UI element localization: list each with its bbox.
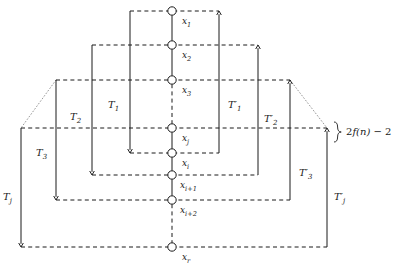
tree-label-subscript: 3 bbox=[43, 153, 47, 161]
dotted-continuation-group bbox=[21, 80, 327, 128]
left-tree-vertical-arrows bbox=[19, 11, 133, 247]
tree-label-T2p: T′2 bbox=[264, 114, 277, 127]
brace-glyph bbox=[334, 122, 341, 142]
node-x3 bbox=[168, 76, 176, 84]
tree-label-T3p: T′3 bbox=[299, 168, 312, 181]
tree-label-T2: T2 bbox=[70, 112, 81, 125]
tree-label-base: T bbox=[334, 191, 341, 202]
node-label-subscript: 2 bbox=[187, 55, 191, 63]
node-label-xi2: xi+2 bbox=[180, 206, 197, 217]
node-label-subscript: j bbox=[187, 138, 189, 146]
node-label-subscript: 1 bbox=[187, 21, 191, 29]
tree-label-Tj: Tj bbox=[3, 192, 12, 205]
node-label-x3: x3 bbox=[182, 86, 191, 97]
tree-label-T3: T3 bbox=[36, 148, 47, 161]
diagram-canvas bbox=[0, 0, 400, 274]
node-label-xj: xj bbox=[182, 134, 189, 145]
node-label-subscript: 3 bbox=[187, 90, 191, 98]
tree-label-subscript: 2 bbox=[273, 119, 277, 127]
node-label-xi1: xi+1 bbox=[180, 181, 197, 192]
annotation-argument: (n) bbox=[356, 126, 370, 137]
node-xj bbox=[168, 124, 176, 132]
right-tree-vertical-arrows bbox=[217, 11, 330, 247]
tree-label-subscript: j bbox=[343, 197, 345, 205]
node-label-x1: x1 bbox=[182, 17, 191, 28]
node-xi1 bbox=[168, 171, 176, 179]
node-x1 bbox=[168, 7, 176, 15]
annotation-suffix: − 2 bbox=[370, 126, 391, 137]
recursion-tree-diagram: x1x2x3xjxixi+1xi+2xrT1T2T3TjT′1T′2T′3T′j… bbox=[0, 0, 400, 274]
tree-label-subscript: 1 bbox=[115, 105, 119, 113]
tree-label-base: T bbox=[108, 99, 115, 110]
tree-label-base: T bbox=[228, 99, 235, 110]
tree-label-T1p: T′1 bbox=[228, 100, 241, 113]
node-xr bbox=[168, 243, 176, 251]
tree-label-subscript: 3 bbox=[308, 173, 312, 181]
node-label-subscript: r bbox=[187, 257, 190, 265]
tree-label-subscript: j bbox=[10, 197, 12, 205]
node-x2 bbox=[168, 41, 176, 49]
node-label-xr: xr bbox=[182, 253, 190, 264]
tree-label-Tjp: T′j bbox=[334, 192, 345, 205]
tree-label-subscript: 1 bbox=[237, 105, 241, 113]
tree-label-base: T bbox=[3, 191, 10, 202]
node-xi2 bbox=[168, 196, 176, 204]
dotted-continuation-left-upper bbox=[21, 80, 56, 128]
tree-label-base: T bbox=[36, 147, 43, 158]
node-label-x2: x2 bbox=[182, 51, 191, 62]
node-label-subscript: i+1 bbox=[185, 185, 197, 193]
tree-label-base: T bbox=[70, 111, 77, 122]
node-label-subscript: i+2 bbox=[185, 210, 197, 218]
node-label-subscript: i bbox=[187, 163, 189, 171]
node-xi bbox=[168, 149, 176, 157]
range-annotation-label: 2f(n) − 2 bbox=[346, 127, 391, 137]
annotation-brace bbox=[334, 122, 341, 142]
dotted-continuation-right-upper bbox=[290, 80, 327, 128]
tree-label-base: T bbox=[299, 167, 306, 178]
tree-label-T1: T1 bbox=[108, 100, 119, 113]
tree-label-base: T bbox=[264, 113, 271, 124]
node-label-xi: xi bbox=[182, 159, 189, 170]
tree-label-subscript: 2 bbox=[77, 117, 81, 125]
